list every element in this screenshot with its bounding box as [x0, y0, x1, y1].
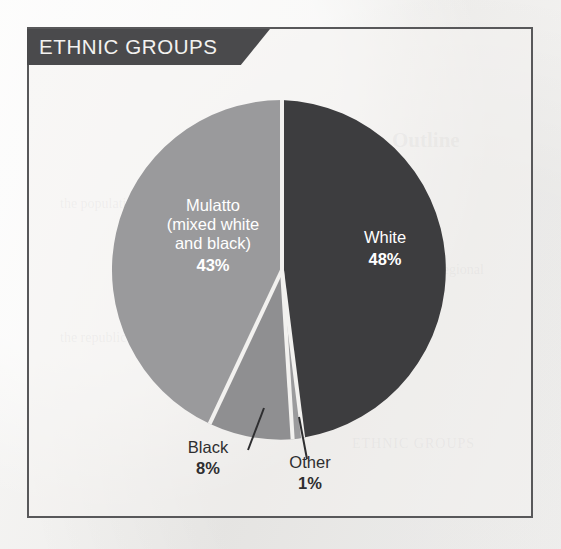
title-banner: ETHNIC GROUPS: [27, 29, 270, 65]
chart-frame: [27, 27, 533, 518]
chart-page: Outline the population regional the repu…: [0, 0, 561, 549]
page-title: ETHNIC GROUPS: [27, 35, 218, 59]
